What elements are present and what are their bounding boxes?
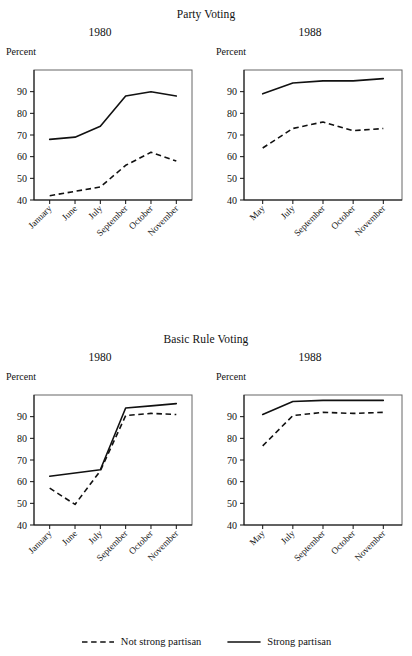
y-tick-label: 40 xyxy=(227,195,237,206)
y-tick-label: 80 xyxy=(17,433,27,444)
y-tick-label: 50 xyxy=(17,498,27,509)
x-tick-label: October xyxy=(329,203,357,231)
plot-area-party-voting-1988: 405060708090MayJulySeptemberOctoberNovem… xyxy=(210,60,410,265)
y-axis-label-basic-1988: Percent xyxy=(216,371,246,382)
x-tick-label: July xyxy=(86,528,104,546)
series-line-dashed xyxy=(263,122,384,148)
x-tick-label: July xyxy=(279,203,297,221)
series-line-solid xyxy=(263,79,384,94)
y-tick-label: 40 xyxy=(17,520,27,531)
y-axis-label-party-1980: Percent xyxy=(6,46,36,57)
x-tick-label: July xyxy=(86,203,104,221)
chart-basic-rule-voting-1988: 405060708090MayJulySeptemberOctoberNovem… xyxy=(210,385,410,590)
x-tick-label: October xyxy=(329,528,357,556)
y-tick-label: 60 xyxy=(17,476,27,487)
y-tick-label: 40 xyxy=(227,520,237,531)
series-line-solid xyxy=(50,404,177,477)
y-axis-label-party-1988: Percent xyxy=(216,46,246,57)
x-tick-label: January xyxy=(26,528,54,556)
year-label-party-1980: 1980 xyxy=(40,26,160,38)
x-tick-label: January xyxy=(26,203,54,231)
x-tick-label: July xyxy=(279,528,297,546)
y-tick-label: 90 xyxy=(227,411,237,422)
y-tick-label: 90 xyxy=(17,86,27,97)
x-tick-label: June xyxy=(60,203,79,222)
y-tick-label: 60 xyxy=(17,151,27,162)
chart-basic-rule-voting-1980: 405060708090JanuaryJuneJulySeptemberOcto… xyxy=(0,385,200,590)
y-tick-label: 50 xyxy=(17,173,27,184)
y-tick-label: 60 xyxy=(227,476,237,487)
plot-area-basic-rule-voting-1980: 405060708090JanuaryJuneJulySeptemberOcto… xyxy=(0,385,200,590)
legend-swatch-solid xyxy=(227,637,261,647)
x-tick-label: September xyxy=(292,528,327,563)
y-tick-label: 70 xyxy=(227,130,237,141)
y-tick-label: 80 xyxy=(227,108,237,119)
y-tick-label: 70 xyxy=(227,455,237,466)
year-label-party-1988: 1988 xyxy=(250,26,370,38)
y-tick-label: 90 xyxy=(17,411,27,422)
y-tick-label: 80 xyxy=(17,108,27,119)
legend-item-not-strong-partisan: Not strong partisan xyxy=(81,636,202,647)
figure-root: Party Voting 1980 1988 Percent Percent 4… xyxy=(0,0,412,656)
y-tick-label: 70 xyxy=(17,455,27,466)
y-tick-label: 40 xyxy=(17,195,27,206)
legend-swatch-dashed xyxy=(81,637,115,647)
y-axis-label-basic-1980: Percent xyxy=(6,371,36,382)
x-tick-label: November xyxy=(353,203,387,237)
series-line-solid xyxy=(50,92,177,140)
legend-label-strong-partisan: Strong partisan xyxy=(267,636,331,647)
y-tick-label: 50 xyxy=(227,498,237,509)
plot-area-basic-rule-voting-1988: 405060708090MayJulySeptemberOctoberNovem… xyxy=(210,385,410,590)
legend-item-strong-partisan: Strong partisan xyxy=(227,636,331,647)
series-line-dashed xyxy=(263,412,384,446)
y-tick-label: 70 xyxy=(17,130,27,141)
x-tick-label: May xyxy=(248,528,267,547)
panel-title-party-voting: Party Voting xyxy=(0,8,412,20)
series-line-dashed xyxy=(50,152,177,195)
plot-area-party-voting-1980: 405060708090JanuaryJuneJulySeptemberOcto… xyxy=(0,60,200,265)
x-tick-label: November xyxy=(353,528,387,562)
x-tick-label: September xyxy=(292,203,327,238)
series-line-dashed xyxy=(50,413,177,504)
legend-label-not-strong-partisan: Not strong partisan xyxy=(121,636,202,647)
panel-title-basic-rule-voting: Basic Rule Voting xyxy=(0,333,412,345)
x-tick-label: June xyxy=(60,528,79,547)
year-label-basic-1988: 1988 xyxy=(250,351,370,363)
chart-party-voting-1980: 405060708090JanuaryJuneJulySeptemberOcto… xyxy=(0,60,200,265)
year-label-basic-1980: 1980 xyxy=(40,351,160,363)
y-tick-label: 60 xyxy=(227,151,237,162)
x-tick-label: May xyxy=(248,203,267,222)
y-tick-label: 90 xyxy=(227,86,237,97)
y-tick-label: 50 xyxy=(227,173,237,184)
figure-legend: Not strong partisan Strong partisan xyxy=(0,636,412,647)
chart-party-voting-1988: 405060708090MayJulySeptemberOctoberNovem… xyxy=(210,60,410,265)
y-tick-label: 80 xyxy=(227,433,237,444)
